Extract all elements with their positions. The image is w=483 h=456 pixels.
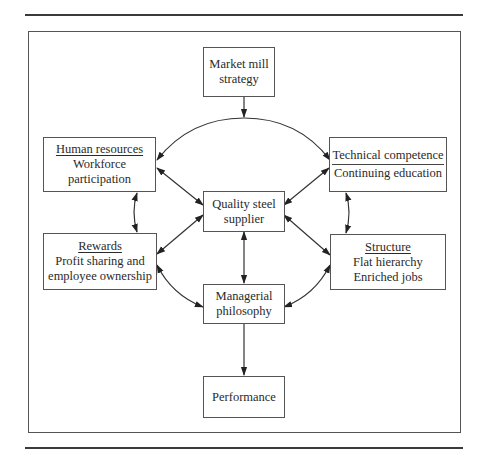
node-text: participation (68, 172, 131, 187)
node-technical-competence: Technical competence Continuing educatio… (329, 137, 447, 192)
node-performance: Performance (203, 376, 285, 418)
arrow-arc-to-human-resources (157, 118, 244, 160)
node-text: Quality steel (212, 197, 276, 212)
arrow-tech-quality (284, 168, 329, 205)
node-text: employee ownership (48, 269, 152, 284)
arrow-tech-structure (346, 193, 349, 233)
node-heading: Structure (365, 240, 411, 255)
node-text: Market mill (209, 57, 268, 72)
node-text: Profit sharing and (55, 254, 145, 269)
arrow-rewards-quality (157, 215, 203, 254)
node-text: supplier (224, 212, 264, 227)
arrow-structure-managerial (284, 265, 330, 307)
node-text: Managerial (216, 289, 273, 304)
node-text: Performance (212, 390, 276, 405)
node-text: Enriched jobs (353, 270, 422, 285)
node-quality-steel-supplier: Quality steel supplier (203, 191, 285, 232)
arrow-hr-rewards (134, 193, 137, 232)
arrow-rewards-managerial (157, 265, 203, 307)
node-text: Workforce (73, 157, 126, 172)
node-heading: Technical competence (332, 148, 443, 165)
node-managerial-philosophy: Managerial philosophy (203, 284, 285, 324)
node-heading: Rewards (78, 239, 122, 254)
node-structure: Structure Flat hierarchy Enriched jobs (330, 234, 446, 290)
node-text: Flat hierarchy (353, 255, 423, 270)
node-human-resources: Human resources Workforce participation (43, 137, 156, 192)
node-text: Continuing education (334, 166, 442, 181)
arrow-structure-quality (284, 215, 330, 255)
node-market-mill-strategy: Market mill strategy (203, 47, 275, 97)
arrow-hr-quality (157, 168, 203, 205)
node-heading: Human resources (56, 142, 143, 157)
node-rewards: Rewards Profit sharing and employee owne… (43, 233, 157, 290)
arrow-arc-to-technical (244, 118, 330, 160)
node-text: philosophy (216, 304, 272, 319)
node-text: strategy (219, 72, 259, 87)
